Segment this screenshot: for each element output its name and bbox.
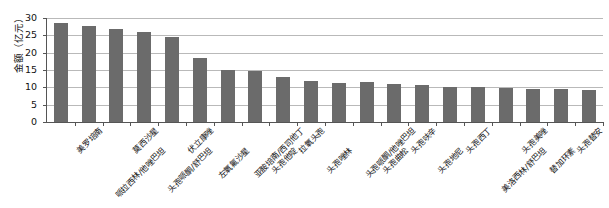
bar-slot [269, 18, 297, 122]
x-tick-label: 哌拉西林/他唑巴坦 [113, 146, 166, 199]
bar [54, 23, 68, 122]
bar [248, 71, 262, 122]
bar-slot [436, 18, 464, 122]
bar-slot [47, 18, 75, 122]
y-tick-label: 0 [0, 117, 37, 127]
bar-slot [325, 18, 353, 122]
x-tick-label: 头孢地尼 [437, 146, 466, 175]
y-tick-label: 10 [0, 83, 37, 93]
bar [221, 70, 235, 122]
bar [165, 37, 179, 122]
bar [137, 32, 151, 122]
bar [304, 81, 318, 122]
y-tick-label: 5 [0, 100, 37, 110]
bar [526, 89, 540, 122]
bar-slot [492, 18, 520, 122]
bar [82, 26, 96, 122]
x-tick-label: 左氧氟沙星 [217, 146, 251, 180]
bar [193, 58, 207, 122]
bar [360, 82, 374, 122]
x-tick-label: 头孢唑林 [326, 146, 355, 175]
bar-slot [158, 18, 186, 122]
y-tick-label: 30 [0, 13, 37, 23]
bar-chart: 金额（亿元） 051015202530 美罗培南哌拉西林/他唑巴坦莫西沙星头孢哌… [0, 0, 609, 208]
bar-slot [297, 18, 325, 122]
bar [471, 87, 485, 122]
y-tick-label: 15 [0, 65, 37, 75]
bar-slot [520, 18, 548, 122]
bar [443, 87, 457, 122]
x-tick-label: 替加环素 [548, 146, 577, 175]
bar-slot [575, 18, 603, 122]
bar-slot [353, 18, 381, 122]
bar-slot [547, 18, 575, 122]
bar [387, 84, 401, 122]
y-tick-mark [43, 122, 47, 123]
x-tick-label: 美罗培南 [75, 126, 104, 155]
bar [415, 85, 429, 122]
bar-slot [242, 18, 270, 122]
bar-slot [214, 18, 242, 122]
bar-slot [464, 18, 492, 122]
x-tick-label: 头孢西丁 [465, 126, 494, 155]
bar-slot [186, 18, 214, 122]
bar-slot [381, 18, 409, 122]
bar [554, 89, 568, 122]
bar-slot [408, 18, 436, 122]
bar-slot [75, 18, 103, 122]
bars [47, 18, 603, 122]
bar [109, 29, 123, 122]
bar [276, 77, 290, 122]
bar-slot [130, 18, 158, 122]
bar-slot [103, 18, 131, 122]
x-axis-labels: 美罗培南哌拉西林/他唑巴坦莫西沙星头孢哌酮/舒巴坦伏立康唑左氧氟沙星亚胺培南/西… [46, 126, 609, 208]
bar [499, 88, 513, 122]
x-tick-label: 头孢替安 [576, 126, 605, 155]
plot-area: 051015202530 [46, 18, 603, 123]
bar [582, 90, 596, 122]
bar [332, 83, 346, 122]
y-tick-label: 25 [0, 31, 37, 41]
y-tick-label: 20 [0, 48, 37, 58]
